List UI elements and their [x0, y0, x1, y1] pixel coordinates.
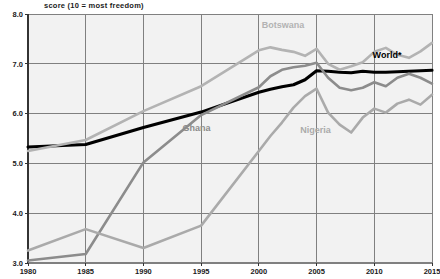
y-axis-tick-label: 8.0 [13, 10, 23, 19]
series-label: Ghana [183, 123, 212, 133]
x-axis-tick-label: 2010 [366, 267, 383, 276]
x-axis-tick-label: 2015 [424, 267, 440, 276]
series-label: Botswana [262, 20, 306, 30]
x-axis-tick-label: 1980 [20, 267, 37, 276]
x-axis-tick-label: 2005 [308, 267, 325, 276]
x-axis-tick-label: 1995 [193, 267, 210, 276]
chart-root: score (10 = most freedom) 3.04.05.06.07.… [0, 0, 440, 279]
x-axis-tick-label: 2000 [251, 267, 268, 276]
x-axis-ticks: 19801985199019952000200520102015 [20, 263, 440, 276]
x-axis-tick-label: 1985 [77, 267, 94, 276]
y-axis-tick-label: 6.0 [13, 109, 23, 118]
y-axis-ticks: 3.04.05.06.07.08.0 [13, 10, 28, 268]
y-axis-tick-label: 5.0 [13, 159, 23, 168]
y-axis-tick-label: 7.0 [13, 60, 23, 69]
series-label: Nigeria [300, 125, 332, 135]
chart-plot-area: 3.04.05.06.07.08.0 198019851990199520002… [0, 0, 440, 279]
line-chart-svg: 3.04.05.06.07.08.0 198019851990199520002… [0, 0, 440, 279]
y-axis-tick-label: 4.0 [13, 209, 23, 218]
x-axis-tick-label: 1990 [135, 267, 152, 276]
series-label: World* [373, 50, 402, 60]
